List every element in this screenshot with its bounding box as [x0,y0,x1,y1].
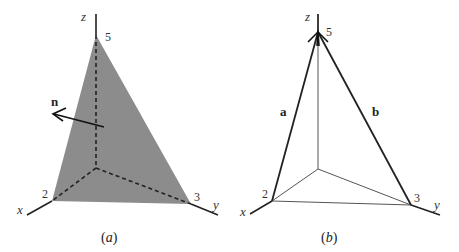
x-axis-line-b [250,201,272,214]
base-edge [272,201,411,205]
y-axis-inner-b [318,169,411,205]
z-axis-label-b: z [304,9,310,24]
y-axis-label-b: y [432,197,440,212]
caption-a: (a) [101,230,118,246]
x-axis-line-a [27,201,52,215]
x-intercept-label-a: 2 [42,187,48,201]
vector-b [318,32,411,205]
x-axis-label-a: x [16,202,23,217]
vector-b-label: b [372,104,379,119]
normal-label: n [51,94,59,109]
y-axis-label-a: y [211,197,219,212]
z-intercept-label-b: 5 [326,25,332,39]
vector-a-label: a [280,104,287,119]
x-axis-label-b: x [239,204,246,219]
arrowhead-icon [53,108,66,121]
panel-a: n z 5 2 3 x y (a) [16,9,219,246]
figure-canvas: n z 5 2 3 x y (a) z 5 2 3 x y [0,0,459,252]
y-intercept-label-b: 3 [414,191,420,205]
panel-b: z 5 2 3 x y a b (b) [239,9,440,246]
z-axis-label-a: z [80,9,86,24]
z-intercept-label-a: 5 [105,30,111,44]
vector-a [272,32,318,201]
x-intercept-label-b: 2 [262,187,268,201]
caption-b: (b) [321,230,338,246]
y-intercept-label-a: 3 [194,190,200,204]
